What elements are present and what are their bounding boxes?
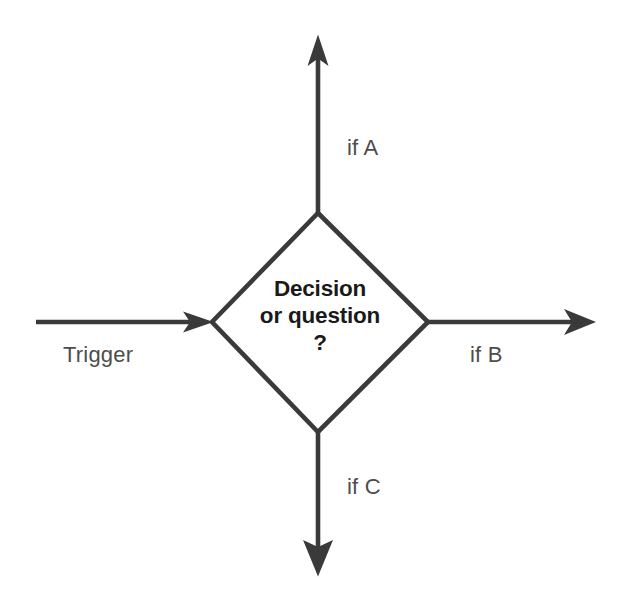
edge-label-if-a: if A: [347, 137, 378, 159]
decision-flowchart-diagram: Decision or question ? Trigger if A if B…: [0, 0, 617, 605]
decision-node-text: Decision or question ?: [213, 276, 427, 356]
edge-if-a: [308, 35, 329, 214]
decision-node-text-line-2: or question: [213, 303, 427, 330]
edge-label-if-b: if B: [470, 344, 503, 366]
edge-label-trigger: Trigger: [63, 344, 133, 366]
decision-node-text-line-1: Decision: [213, 276, 427, 303]
edge-if-b: [428, 309, 596, 335]
edge-label-if-c: if C: [347, 476, 381, 498]
edge-trigger: [36, 312, 214, 333]
edge-if-c: [303, 432, 333, 577]
decision-node-text-line-3: ?: [213, 330, 427, 357]
